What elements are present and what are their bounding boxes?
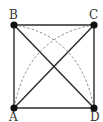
geometry-diagram: B C A D (0, 0, 103, 122)
point-b (10, 21, 17, 28)
label-a: A (8, 110, 18, 122)
point-c (90, 21, 97, 28)
label-c: C (89, 8, 98, 22)
label-b: B (9, 8, 18, 22)
label-d: D (90, 110, 100, 122)
